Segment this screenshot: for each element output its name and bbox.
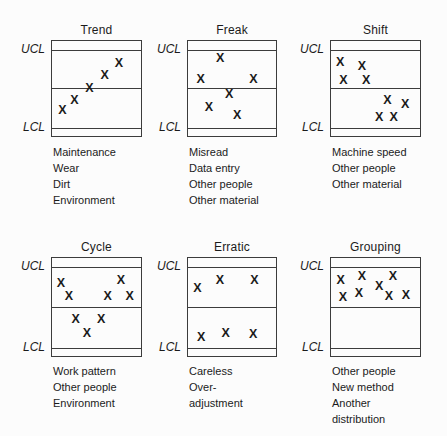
chart-box: XXXXXXXX bbox=[51, 257, 142, 357]
data-point-marker: X bbox=[401, 97, 409, 109]
data-point-marker: X bbox=[197, 330, 205, 342]
cause-item: Over- bbox=[189, 379, 324, 395]
data-point-marker: X bbox=[193, 281, 201, 293]
ucl-label: UCL bbox=[288, 259, 324, 273]
data-point-marker: X bbox=[375, 279, 383, 291]
data-point-marker: X bbox=[389, 270, 397, 282]
center-line bbox=[188, 307, 276, 308]
cause-item: Machine speed bbox=[332, 144, 447, 160]
ucl-line bbox=[331, 50, 420, 51]
chart-box: XXXXXXXX bbox=[330, 40, 421, 137]
center-line bbox=[331, 88, 420, 89]
lcl-line bbox=[331, 128, 420, 129]
cause-item: Other people bbox=[332, 363, 447, 379]
data-point-marker: X bbox=[362, 74, 370, 86]
cause-item: distribution bbox=[332, 411, 447, 427]
lcl-line bbox=[188, 128, 276, 129]
data-point-marker: X bbox=[115, 57, 123, 69]
cause-list-erratic: CarelessOver-adjustment bbox=[189, 363, 324, 411]
ucl-label: UCL bbox=[145, 42, 181, 56]
cause-item: Data entry bbox=[189, 160, 324, 176]
lcl-label: LCL bbox=[9, 120, 45, 134]
data-point-marker: X bbox=[355, 287, 363, 299]
data-point-marker: X bbox=[104, 289, 112, 301]
data-point-marker: X bbox=[402, 289, 410, 301]
ucl-line bbox=[52, 267, 141, 268]
lcl-label: LCL bbox=[288, 340, 324, 354]
ucl-line bbox=[188, 50, 276, 51]
cause-item: Work pattern bbox=[53, 363, 188, 379]
cause-item: Other people bbox=[332, 160, 447, 176]
panel-title: Grouping bbox=[330, 240, 421, 254]
data-point-marker: X bbox=[58, 104, 66, 116]
data-point-marker: X bbox=[250, 273, 258, 285]
data-point-marker: X bbox=[126, 289, 134, 301]
data-point-marker: X bbox=[216, 273, 224, 285]
data-point-marker: X bbox=[385, 289, 393, 301]
data-point-marker: X bbox=[216, 51, 224, 63]
ucl-label: UCL bbox=[9, 42, 45, 56]
cause-item: Another bbox=[332, 395, 447, 411]
data-point-marker: X bbox=[83, 326, 91, 338]
chart-box: XXXXXX bbox=[187, 257, 277, 357]
cause-item: Other material bbox=[189, 192, 324, 208]
cause-item: Other people bbox=[189, 176, 324, 192]
ucl-label: UCL bbox=[288, 42, 324, 56]
cause-item: Maintenance bbox=[53, 144, 188, 160]
cause-item: Other people bbox=[53, 379, 188, 395]
cause-list-cycle: Work patternOther peopleEnvironment bbox=[53, 363, 188, 411]
cause-item: adjustment bbox=[189, 395, 324, 411]
lcl-line bbox=[188, 348, 276, 349]
data-point-marker: X bbox=[383, 93, 391, 105]
lcl-line bbox=[52, 348, 141, 349]
data-point-marker: X bbox=[205, 101, 213, 113]
lcl-line bbox=[331, 348, 420, 349]
data-point-marker: X bbox=[249, 328, 257, 340]
lcl-label: LCL bbox=[288, 120, 324, 134]
ucl-line bbox=[331, 267, 420, 268]
cause-item: Environment bbox=[53, 192, 188, 208]
data-point-marker: X bbox=[101, 69, 109, 81]
panel-title: Freak bbox=[187, 23, 277, 37]
panel-title: Shift bbox=[330, 23, 421, 37]
data-point-marker: X bbox=[339, 290, 347, 302]
lcl-line bbox=[52, 128, 141, 129]
data-point-marker: X bbox=[97, 313, 105, 325]
data-point-marker: X bbox=[197, 73, 205, 85]
cause-list-shift: Machine speedOther peopleOther material bbox=[332, 144, 447, 192]
ucl-label: UCL bbox=[9, 259, 45, 273]
data-point-marker: X bbox=[233, 109, 241, 121]
lcl-label: LCL bbox=[9, 340, 45, 354]
data-point-marker: X bbox=[70, 94, 78, 106]
cause-list-freak: MisreadData entryOther peopleOther mater… bbox=[189, 144, 324, 208]
cause-item: Wear bbox=[53, 160, 188, 176]
lcl-label: LCL bbox=[145, 340, 181, 354]
data-point-marker: X bbox=[117, 273, 125, 285]
data-point-marker: X bbox=[389, 111, 397, 123]
control-chart-patterns-figure: TrendXXXXXUCLLCLMaintenanceWearDirtEnvir… bbox=[0, 0, 447, 436]
data-point-marker: X bbox=[222, 326, 230, 338]
cause-list-grouping: Other peopleNew methodAnotherdistributio… bbox=[332, 363, 447, 427]
data-point-marker: X bbox=[358, 269, 366, 281]
data-point-marker: X bbox=[249, 73, 257, 85]
chart-box: XXXXXX bbox=[187, 40, 277, 137]
cause-item: Other material bbox=[332, 176, 447, 192]
lcl-label: LCL bbox=[145, 120, 181, 134]
chart-box: XXXXX bbox=[51, 40, 142, 137]
data-point-marker: X bbox=[375, 111, 383, 123]
chart-box: XXXXXXXX bbox=[330, 257, 421, 357]
cause-item: Misread bbox=[189, 144, 324, 160]
cause-item: New method bbox=[332, 379, 447, 395]
cause-list-trend: MaintenanceWearDirtEnvironment bbox=[53, 144, 188, 208]
data-point-marker: X bbox=[339, 74, 347, 86]
center-line bbox=[331, 307, 420, 308]
cause-item: Dirt bbox=[53, 176, 188, 192]
cause-item: Environment bbox=[53, 395, 188, 411]
panel-title: Trend bbox=[51, 23, 142, 37]
data-point-marker: X bbox=[358, 60, 366, 72]
ucl-line bbox=[52, 50, 141, 51]
data-point-marker: X bbox=[225, 88, 233, 100]
data-point-marker: X bbox=[337, 273, 345, 285]
center-line bbox=[52, 88, 141, 89]
center-line bbox=[52, 307, 141, 308]
